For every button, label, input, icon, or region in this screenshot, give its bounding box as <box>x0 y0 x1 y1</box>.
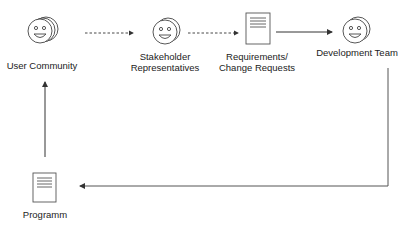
diagram-canvas <box>0 0 410 226</box>
node-label-dev-team: Development Team <box>316 47 398 58</box>
label-line: Requirements/ <box>219 51 295 62</box>
label-line: Change Requests <box>219 62 295 73</box>
node-label-programm: Programm <box>23 209 67 220</box>
smiley-group-icon <box>28 17 58 43</box>
document-icon <box>246 13 270 44</box>
label-line: Stakeholder <box>131 51 200 62</box>
node-label-user-community: User Community <box>7 60 78 71</box>
document-icon <box>33 173 56 202</box>
node-label-stakeholders: Stakeholder Representatives <box>131 51 200 73</box>
edge-devteam-to-programm <box>80 68 388 186</box>
label-line: Representatives <box>131 62 200 73</box>
node-label-requirements: Requirements/ Change Requests <box>219 51 295 73</box>
smiley-pair-icon <box>153 18 180 44</box>
smiley-pair-icon <box>343 17 370 43</box>
